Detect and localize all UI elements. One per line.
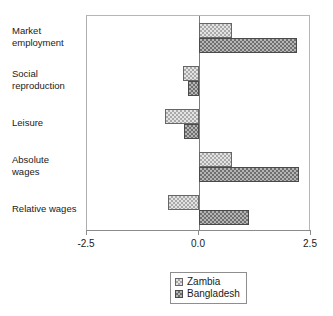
x-tick-2 [310,230,311,235]
bar-bangladesh-4 [199,210,249,225]
bar-chart-figure: Market employmentSocial reproductionLeis… [0,0,333,316]
legend-swatch-zambia [175,278,183,286]
x-tick-1 [198,230,199,235]
x-tick-0 [86,230,87,235]
category-label-1: Social reproduction [4,68,86,91]
bar-zambia-3 [199,152,232,167]
legend-label-bangladesh: Bangladesh [187,288,240,300]
x-tick-label-0: -2.5 [77,238,94,249]
x-tick-label-2: 2.5 [303,238,317,249]
legend-item-zambia[interactable]: Zambia [175,276,240,288]
bar-zambia-1 [183,66,199,81]
bar-zambia-4 [168,195,199,210]
x-tick-label-1: 0.0 [191,238,205,249]
category-label-3: Absolute wages [4,154,86,177]
bar-bangladesh-3 [199,167,299,182]
legend-swatch-bangladesh [175,290,183,298]
legend-label-zambia: Zambia [187,276,220,288]
x-axis: -2.50.02.5 [86,230,310,231]
bar-zambia-0 [199,23,232,38]
plot-area [86,15,310,230]
bar-bangladesh-2 [184,124,199,139]
chart-legend: ZambiaBangladesh [170,272,247,304]
category-label-4: Relative wages [4,203,86,215]
bar-bangladesh-0 [199,38,297,53]
category-axis-labels: Market employmentSocial reproductionLeis… [0,15,86,230]
category-label-2: Leisure [4,117,86,129]
legend-item-bangladesh[interactable]: Bangladesh [175,288,240,300]
category-label-0: Market employment [4,25,86,48]
bar-zambia-2 [165,109,199,124]
bar-bangladesh-1 [188,81,199,96]
